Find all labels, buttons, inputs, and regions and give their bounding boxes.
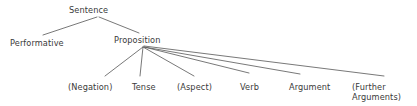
node-performative: Performative bbox=[10, 38, 64, 48]
node-verb: Verb bbox=[240, 82, 259, 92]
node-argument: Argument bbox=[289, 82, 330, 92]
node-sentence: Sentence bbox=[69, 5, 108, 15]
edge-sentence-performative bbox=[43, 17, 97, 35]
node-proposition: Proposition bbox=[114, 35, 161, 45]
edge-group bbox=[43, 17, 384, 76]
node-further-arguments: (Further Arguments) bbox=[352, 82, 401, 102]
node-negation: (Negation) bbox=[68, 82, 112, 92]
sentence-tree-diagram: Sentence Performative Proposition (Negat… bbox=[0, 0, 417, 106]
node-tense: Tense bbox=[132, 82, 156, 92]
edge-proposition-negation bbox=[105, 47, 143, 76]
node-aspect: (Aspect) bbox=[177, 82, 212, 92]
edge-proposition-further-arguments bbox=[144, 46, 384, 76]
edge-sentence-proposition bbox=[99, 17, 139, 33]
edge-proposition-tense bbox=[140, 47, 143, 76]
edge-proposition-verb bbox=[144, 47, 249, 73]
